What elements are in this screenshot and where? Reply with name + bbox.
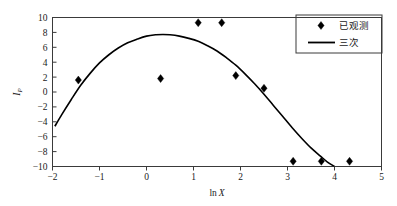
data-point-3 <box>219 19 225 27</box>
plot-frame <box>53 18 382 167</box>
x-tick-label-0: −2 <box>47 172 57 182</box>
x-axis-title-text: lnX <box>209 188 225 198</box>
data-point-2 <box>195 19 201 27</box>
y-axis-title: IP <box>12 88 24 97</box>
chart-container: −2−1012345 1086420−2−4−6−8−10 lnX IP 已观测… <box>0 0 397 206</box>
legend-label-observed: 已观测 <box>339 20 369 31</box>
x-tick-label-4: 2 <box>238 172 243 182</box>
y-tick-label-8: −6 <box>37 132 47 142</box>
legend-label-cubic: 三次 <box>339 37 359 48</box>
data-point-4 <box>233 72 239 80</box>
y-tick-label-0: 10 <box>38 13 48 23</box>
chart-canvas: −2−1012345 1086420−2−4−6−8−10 lnX IP 已观测… <box>0 0 397 206</box>
cubic-fit-curve <box>55 34 335 166</box>
x-tick-label-2: 0 <box>144 172 149 182</box>
legend-diamond-icon <box>318 22 324 30</box>
y-tick-label-3: 4 <box>43 58 48 68</box>
y-tick-label-4: 2 <box>43 73 48 83</box>
data-point-1 <box>157 75 163 83</box>
y-tick-label-7: −4 <box>37 117 47 127</box>
y-axis-title-group: IP <box>12 88 24 97</box>
chart-legend: 已观测三次 <box>296 15 382 53</box>
data-point-0 <box>75 76 81 84</box>
x-tick-label-5: 3 <box>285 172 290 182</box>
y-tick-label-1: 8 <box>43 28 48 38</box>
data-point-6 <box>290 157 296 165</box>
x-tick-label-1: −1 <box>94 172 104 182</box>
plot-area-border <box>53 18 382 167</box>
observed-data-markers <box>75 19 352 166</box>
x-tick-label-3: 1 <box>191 172 196 182</box>
y-axis-tick-labels: 1086420−2−4−6−8−10 <box>33 13 48 172</box>
data-point-8 <box>346 157 352 165</box>
x-tick-label-6: 4 <box>332 172 337 182</box>
x-axis-tick-labels: −2−1012345 <box>47 172 384 182</box>
x-tick-label-7: 5 <box>379 172 384 182</box>
y-tick-label-2: 6 <box>43 43 48 53</box>
x-axis-ticks <box>53 167 382 171</box>
y-tick-label-10: −10 <box>33 162 48 172</box>
cubic-fit-path <box>55 34 335 166</box>
y-axis-ticks <box>53 18 57 167</box>
y-tick-label-9: −8 <box>37 147 47 157</box>
x-axis-title: lnX <box>209 188 225 198</box>
y-axis-title-text: IP <box>12 88 24 97</box>
y-tick-label-5: 0 <box>43 87 48 97</box>
y-tick-label-6: −2 <box>37 102 47 112</box>
